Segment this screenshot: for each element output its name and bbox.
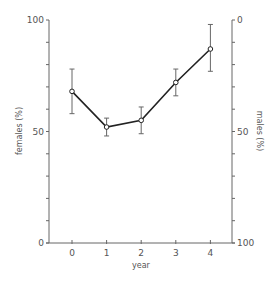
y-axis-right-label: males (%) (255, 111, 264, 151)
chart: 05010005010001234 year females (%) males… (0, 0, 275, 281)
data-point-marker (139, 118, 144, 123)
data-point-marker (70, 89, 75, 94)
x-tick-label: 0 (69, 248, 75, 258)
x-tick-label: 2 (138, 248, 144, 258)
x-axis-label: year (132, 261, 151, 270)
y-left-tick-label: 0 (38, 238, 44, 248)
data-point-marker (104, 125, 109, 130)
y-left-tick-label: 100 (27, 15, 44, 25)
y-axis-left-label: females (%) (15, 107, 24, 155)
data-series (70, 24, 213, 136)
x-tick-label: 1 (104, 248, 110, 258)
x-tick-label: 3 (173, 248, 179, 258)
y-right-tick-label: 50 (237, 127, 249, 137)
y-left-tick-label: 50 (33, 127, 45, 137)
y-right-tick-label: 0 (237, 15, 243, 25)
data-point-marker (208, 47, 213, 52)
x-tick-label: 4 (208, 248, 214, 258)
y-right-tick-label: 100 (237, 238, 254, 248)
axes: 05010005010001234 (27, 15, 255, 258)
data-point-marker (174, 80, 179, 85)
